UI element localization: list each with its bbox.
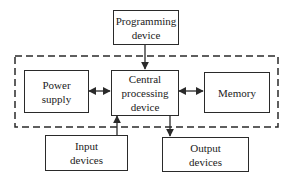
programming-device-label-1: Programming — [116, 14, 177, 28]
output-devices-label-1: Output — [190, 141, 221, 155]
input-devices-label-1: Input — [75, 139, 98, 153]
input-devices-label-2: devices — [70, 153, 103, 167]
power-supply-box: Power supply — [24, 70, 89, 113]
cpu-label-2: processing — [121, 86, 168, 100]
programming-device-label-2: device — [132, 28, 161, 42]
output-devices-label-2: devices — [189, 155, 222, 169]
programming-device-box: Programming device — [113, 10, 179, 45]
cpu-label-3: device — [131, 100, 160, 114]
cpu-label-1: Central — [129, 72, 161, 86]
memory-box: Memory — [204, 72, 270, 113]
central-processing-device-box: Central processing device — [111, 70, 179, 116]
power-supply-label-1: Power — [42, 78, 70, 92]
memory-label: Memory — [218, 86, 256, 100]
input-devices-box: Input devices — [45, 135, 128, 171]
output-devices-box: Output devices — [162, 137, 249, 172]
power-supply-label-2: supply — [42, 92, 71, 106]
